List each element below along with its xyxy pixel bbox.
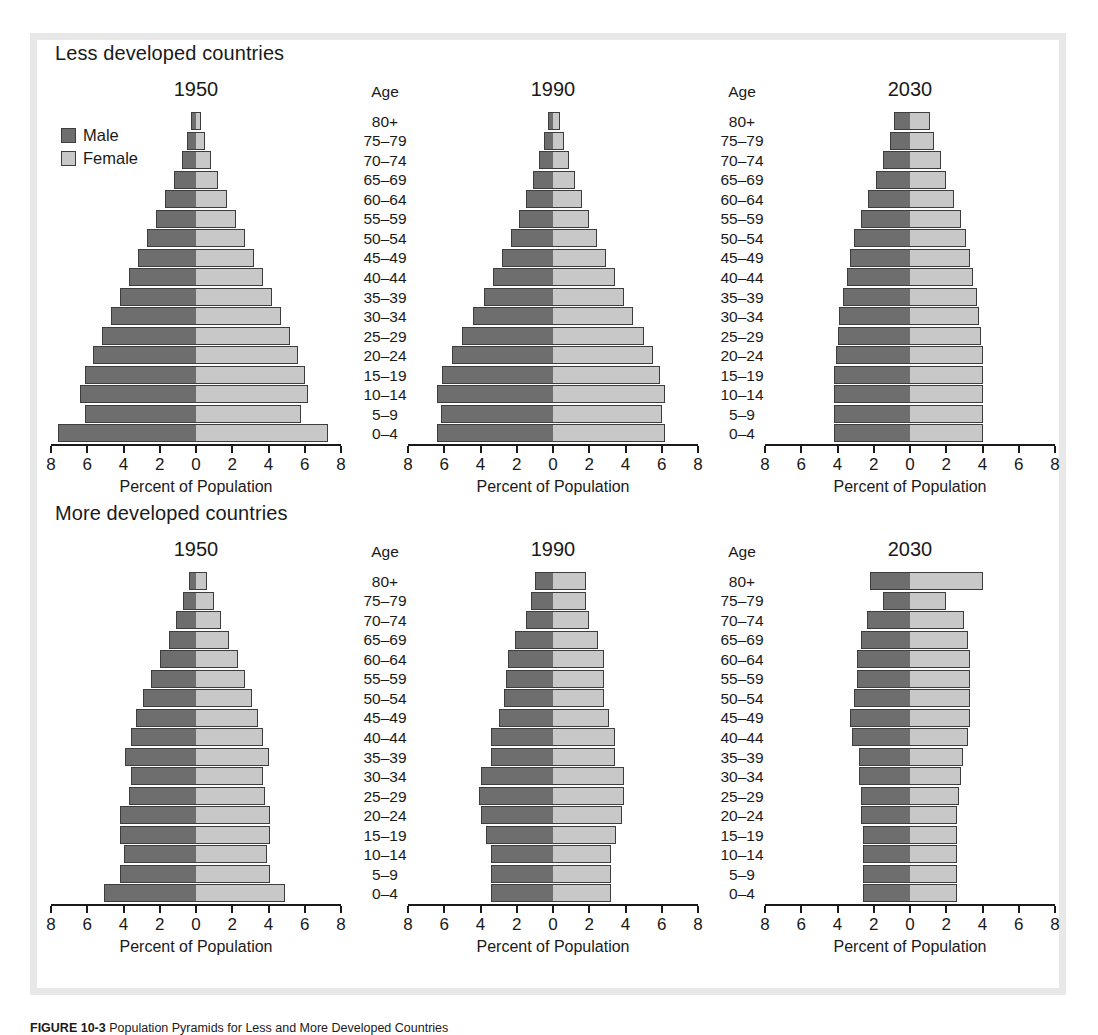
pyramid-row	[408, 572, 698, 590]
bar-female	[196, 826, 270, 844]
bar-female	[196, 689, 252, 707]
bar-male	[839, 307, 910, 325]
x-axis-tick	[552, 446, 554, 453]
pyramid-row	[408, 748, 698, 766]
bar-female	[553, 151, 569, 169]
x-axis-caption: Percent of Population	[51, 478, 341, 496]
bar-female	[910, 709, 970, 727]
pyramid-row	[408, 865, 698, 883]
pyramid-row	[51, 709, 341, 727]
bar-female	[196, 210, 236, 228]
bar-male	[473, 307, 553, 325]
bar-female	[196, 787, 265, 805]
x-axis-tick	[909, 446, 911, 453]
x-axis-tick-label: 6	[429, 915, 459, 935]
x-axis-tick	[625, 446, 627, 453]
pyramid-row	[765, 385, 1055, 403]
pyramid-row	[51, 728, 341, 746]
bar-male	[511, 229, 553, 247]
bar-male	[544, 132, 553, 150]
pyramid-row	[408, 327, 698, 345]
chart-less-developed-countries-1950: 1950864202468Percent of Population	[51, 40, 341, 500]
bar-male	[484, 288, 553, 306]
pyramid-row	[51, 670, 341, 688]
figure-caption-label: FIGURE 10-3	[30, 1021, 106, 1035]
x-axis-tick	[123, 446, 125, 453]
x-axis-tick	[195, 906, 197, 913]
bar-male	[491, 865, 553, 883]
bar-male	[867, 611, 911, 629]
pyramid-row	[51, 650, 341, 668]
pyramid-row	[765, 728, 1055, 746]
pyramid-row	[51, 229, 341, 247]
bar-male	[863, 845, 910, 863]
x-axis-tick	[304, 906, 306, 913]
bar-male	[491, 748, 553, 766]
bar-male	[187, 132, 196, 150]
x-axis-tick	[625, 906, 627, 913]
x-axis-tick-label: 0	[895, 915, 925, 935]
bar-male	[151, 670, 196, 688]
bar-female	[553, 572, 586, 590]
x-axis-tick-label: 2	[502, 455, 532, 475]
bar-female	[553, 592, 586, 610]
bar-male	[861, 631, 910, 649]
bar-female	[196, 132, 205, 150]
pyramid-row	[765, 151, 1055, 169]
bar-male	[442, 366, 553, 384]
bar-male	[868, 190, 910, 208]
x-axis-tick-label: 6	[72, 915, 102, 935]
bar-female	[196, 229, 245, 247]
x-axis-tick	[516, 446, 518, 453]
pyramid-row	[408, 689, 698, 707]
bar-male	[861, 787, 910, 805]
figure-frame: Less developed countriesMore developed c…	[30, 33, 1066, 995]
x-axis-tick-label: 0	[181, 455, 211, 475]
x-axis-tick-label: 0	[538, 915, 568, 935]
x-axis-tick-label: 8	[36, 455, 66, 475]
bar-male	[883, 151, 910, 169]
pyramid-row	[765, 689, 1055, 707]
bar-male	[883, 592, 910, 610]
pyramid-row	[51, 288, 341, 306]
bar-male	[539, 151, 554, 169]
bar-female	[196, 865, 270, 883]
bar-male	[535, 572, 553, 590]
x-axis-tick-label: 2	[217, 455, 247, 475]
bar-male	[176, 611, 196, 629]
x-axis-tick	[697, 446, 699, 453]
bar-male	[491, 884, 553, 902]
x-axis-tick-label: 8	[750, 915, 780, 935]
pyramid-row	[408, 767, 698, 785]
bar-female	[196, 385, 308, 403]
bar-male	[526, 611, 553, 629]
bar-male	[838, 327, 911, 345]
bar-female	[196, 366, 305, 384]
bar-male	[85, 366, 196, 384]
bar-female	[910, 385, 983, 403]
x-axis-tick-label: 2	[931, 915, 961, 935]
bar-male	[80, 385, 196, 403]
bar-female	[910, 592, 946, 610]
x-axis-tick	[945, 906, 947, 913]
bar-female	[196, 806, 270, 824]
x-axis-tick-label: 8	[1040, 915, 1070, 935]
pyramid-row	[765, 650, 1055, 668]
x-axis-tick-label: 6	[290, 915, 320, 935]
bar-female	[910, 249, 970, 267]
bar-female	[196, 307, 281, 325]
pyramid-row	[765, 592, 1055, 610]
x-axis-tick	[982, 906, 984, 913]
x-axis-tick-label: 4	[466, 455, 496, 475]
x-axis-tick	[945, 446, 947, 453]
pyramid-row	[765, 190, 1055, 208]
bar-male	[104, 884, 196, 902]
x-axis-tick	[909, 906, 911, 913]
x-axis-tick	[873, 906, 875, 913]
bar-female	[553, 689, 604, 707]
chart-more-developed-countries-1950: 1950864202468Percent of Population	[51, 500, 341, 960]
bar-female	[553, 631, 598, 649]
x-axis-tick	[661, 906, 663, 913]
x-axis-tick	[764, 446, 766, 453]
bar-male	[481, 767, 554, 785]
